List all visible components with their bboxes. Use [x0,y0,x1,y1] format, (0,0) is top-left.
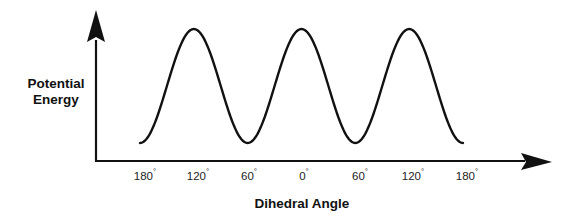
tick-value: 60 [352,170,365,182]
x-tick-label: 180° [456,170,478,182]
y-axis-label-line2: Energy [22,92,90,108]
degree-symbol: ° [306,167,309,176]
degree-symbol: ° [153,167,156,176]
tick-value: 180 [456,170,475,182]
energy-curve [140,29,463,143]
tick-value: 180 [134,170,153,182]
tick-value: 60 [241,170,254,182]
chart-plot-area [0,0,581,221]
y-axis-arrow-icon [87,10,105,42]
x-tick-label: 180° [134,170,156,182]
y-axis-label: Potential Energy [22,76,90,108]
tick-value: 120 [187,170,206,182]
y-axis-label-line1: Potential [22,76,90,92]
x-tick-label: 120° [187,170,209,182]
tick-value: 120 [402,170,421,182]
x-axis-arrow-icon [521,153,552,170]
degree-symbol: ° [254,167,257,176]
degree-symbol: ° [421,167,424,176]
degree-symbol: ° [365,167,368,176]
degree-symbol: ° [206,167,209,176]
x-tick-label: 60° [241,170,257,182]
x-tick-label: 120° [402,170,424,182]
x-tick-label: 60° [352,170,368,182]
x-tick-label: 0° [299,170,309,182]
degree-symbol: ° [475,167,478,176]
x-axis-label: Dihedral Angle [0,196,581,211]
